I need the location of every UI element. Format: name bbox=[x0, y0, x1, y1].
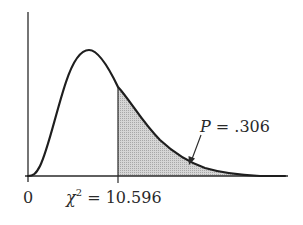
chi-square-chart: 0 χ2 = 10.596 P = .306 bbox=[0, 0, 303, 225]
p-value: = .306 bbox=[211, 117, 270, 136]
critical-value-label: χ2 = 10.596 bbox=[65, 187, 162, 207]
chi-value: = 10.596 bbox=[82, 188, 162, 207]
origin-label: 0 bbox=[23, 188, 33, 207]
p-value-annotation: P = .306 bbox=[199, 117, 270, 136]
annotation-arrow-line bbox=[192, 135, 201, 159]
p-symbol: P bbox=[199, 117, 211, 136]
